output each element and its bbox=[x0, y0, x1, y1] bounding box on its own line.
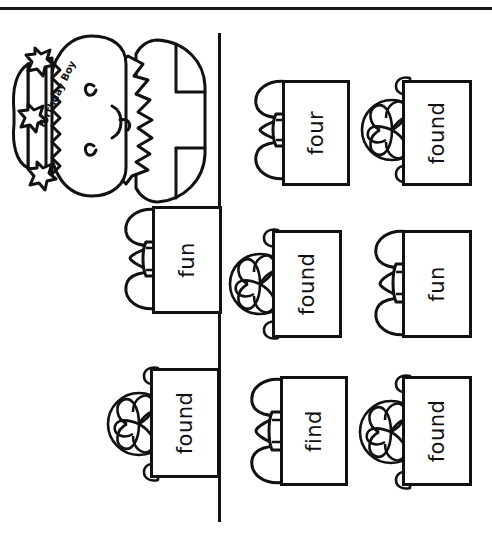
gift-found-3[interactable]: found bbox=[116, 360, 224, 488]
gift-box[interactable]: found bbox=[402, 376, 472, 486]
gift-box[interactable]: fun bbox=[402, 230, 472, 338]
gift-box[interactable]: found bbox=[402, 80, 472, 186]
gift-fun-1[interactable]: fun bbox=[118, 198, 222, 320]
worksheet-page: Birthday Boy four bbox=[0, 0, 492, 537]
gift-box[interactable]: found bbox=[272, 230, 342, 338]
gift-box[interactable]: four bbox=[282, 80, 350, 186]
gift-find[interactable]: find bbox=[246, 368, 352, 496]
gift-word: four bbox=[266, 102, 366, 164]
birthday-boy-illustration: Birthday Boy bbox=[8, 28, 223, 213]
gift-found-2[interactable]: found bbox=[240, 222, 350, 346]
gift-box[interactable]: find bbox=[280, 376, 348, 486]
gift-word: found bbox=[256, 252, 358, 316]
gift-box[interactable]: fun bbox=[152, 206, 222, 314]
gift-found-4[interactable]: found bbox=[368, 368, 480, 496]
gift-word: find bbox=[262, 400, 366, 462]
gift-word: fun bbox=[136, 228, 238, 292]
gift-word: found bbox=[385, 399, 489, 463]
gift-four[interactable]: four bbox=[248, 70, 352, 190]
gift-found-1[interactable]: found bbox=[370, 70, 480, 190]
gift-word: found bbox=[133, 391, 237, 455]
gift-box[interactable]: found bbox=[150, 368, 220, 478]
gift-word: fun bbox=[386, 252, 488, 316]
gift-word: found bbox=[387, 101, 487, 165]
page-top-border bbox=[0, 7, 492, 10]
gift-fun-2[interactable]: fun bbox=[368, 222, 480, 346]
